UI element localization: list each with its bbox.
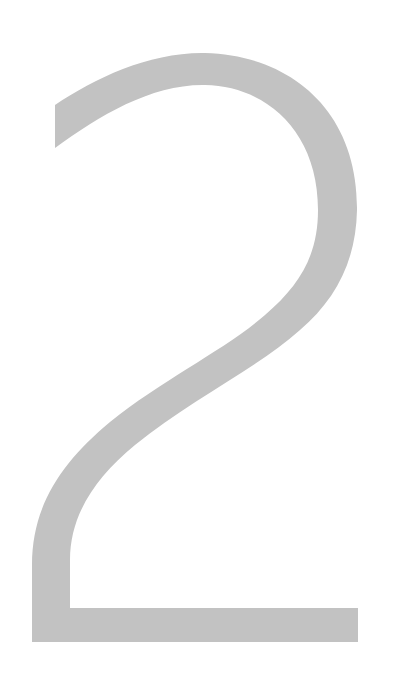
numeral-two-shape [32, 53, 358, 642]
numeral-two-graphic: 2 [0, 0, 394, 687]
numeral-two-icon [0, 0, 394, 687]
